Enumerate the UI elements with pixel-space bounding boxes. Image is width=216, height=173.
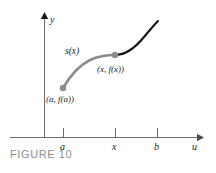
moving-point-marker — [112, 52, 118, 58]
y-axis-arrow — [41, 12, 48, 19]
tick-label-b: b — [154, 141, 159, 152]
tick-label-x: x — [111, 141, 117, 152]
point-label-a-f-of-a: (a, f(a)) — [46, 94, 74, 104]
curve-label-s-of-x: s(x) — [65, 46, 79, 57]
figure-container: y u a x b s(x) (x, f(x)) (a, f(a)) FIGUR… — [0, 0, 216, 173]
function-curve-continuation — [115, 21, 158, 55]
figure-caption: FIGURE 10 — [10, 148, 72, 160]
y-axis-label: y — [49, 14, 55, 25]
point-label-x-f-of-x: (x, f(x)) — [97, 64, 124, 74]
start-point-marker — [60, 85, 66, 91]
x-axis-arrow — [197, 134, 204, 141]
x-axis-label: u — [192, 141, 197, 152]
